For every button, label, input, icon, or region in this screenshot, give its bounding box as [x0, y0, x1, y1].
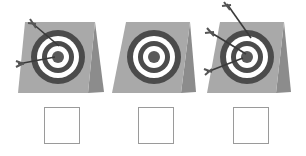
answer-box-3[interactable]	[233, 107, 269, 144]
target-rings	[220, 30, 274, 84]
answer-box-2[interactable]	[138, 107, 174, 144]
target-board-2	[112, 22, 196, 93]
target-rings	[31, 30, 85, 84]
target-board-1	[16, 19, 104, 93]
answer-box-1[interactable]	[44, 107, 80, 144]
target-board-3	[204, 2, 291, 93]
target-rings	[127, 30, 181, 84]
bullseye	[148, 51, 160, 63]
